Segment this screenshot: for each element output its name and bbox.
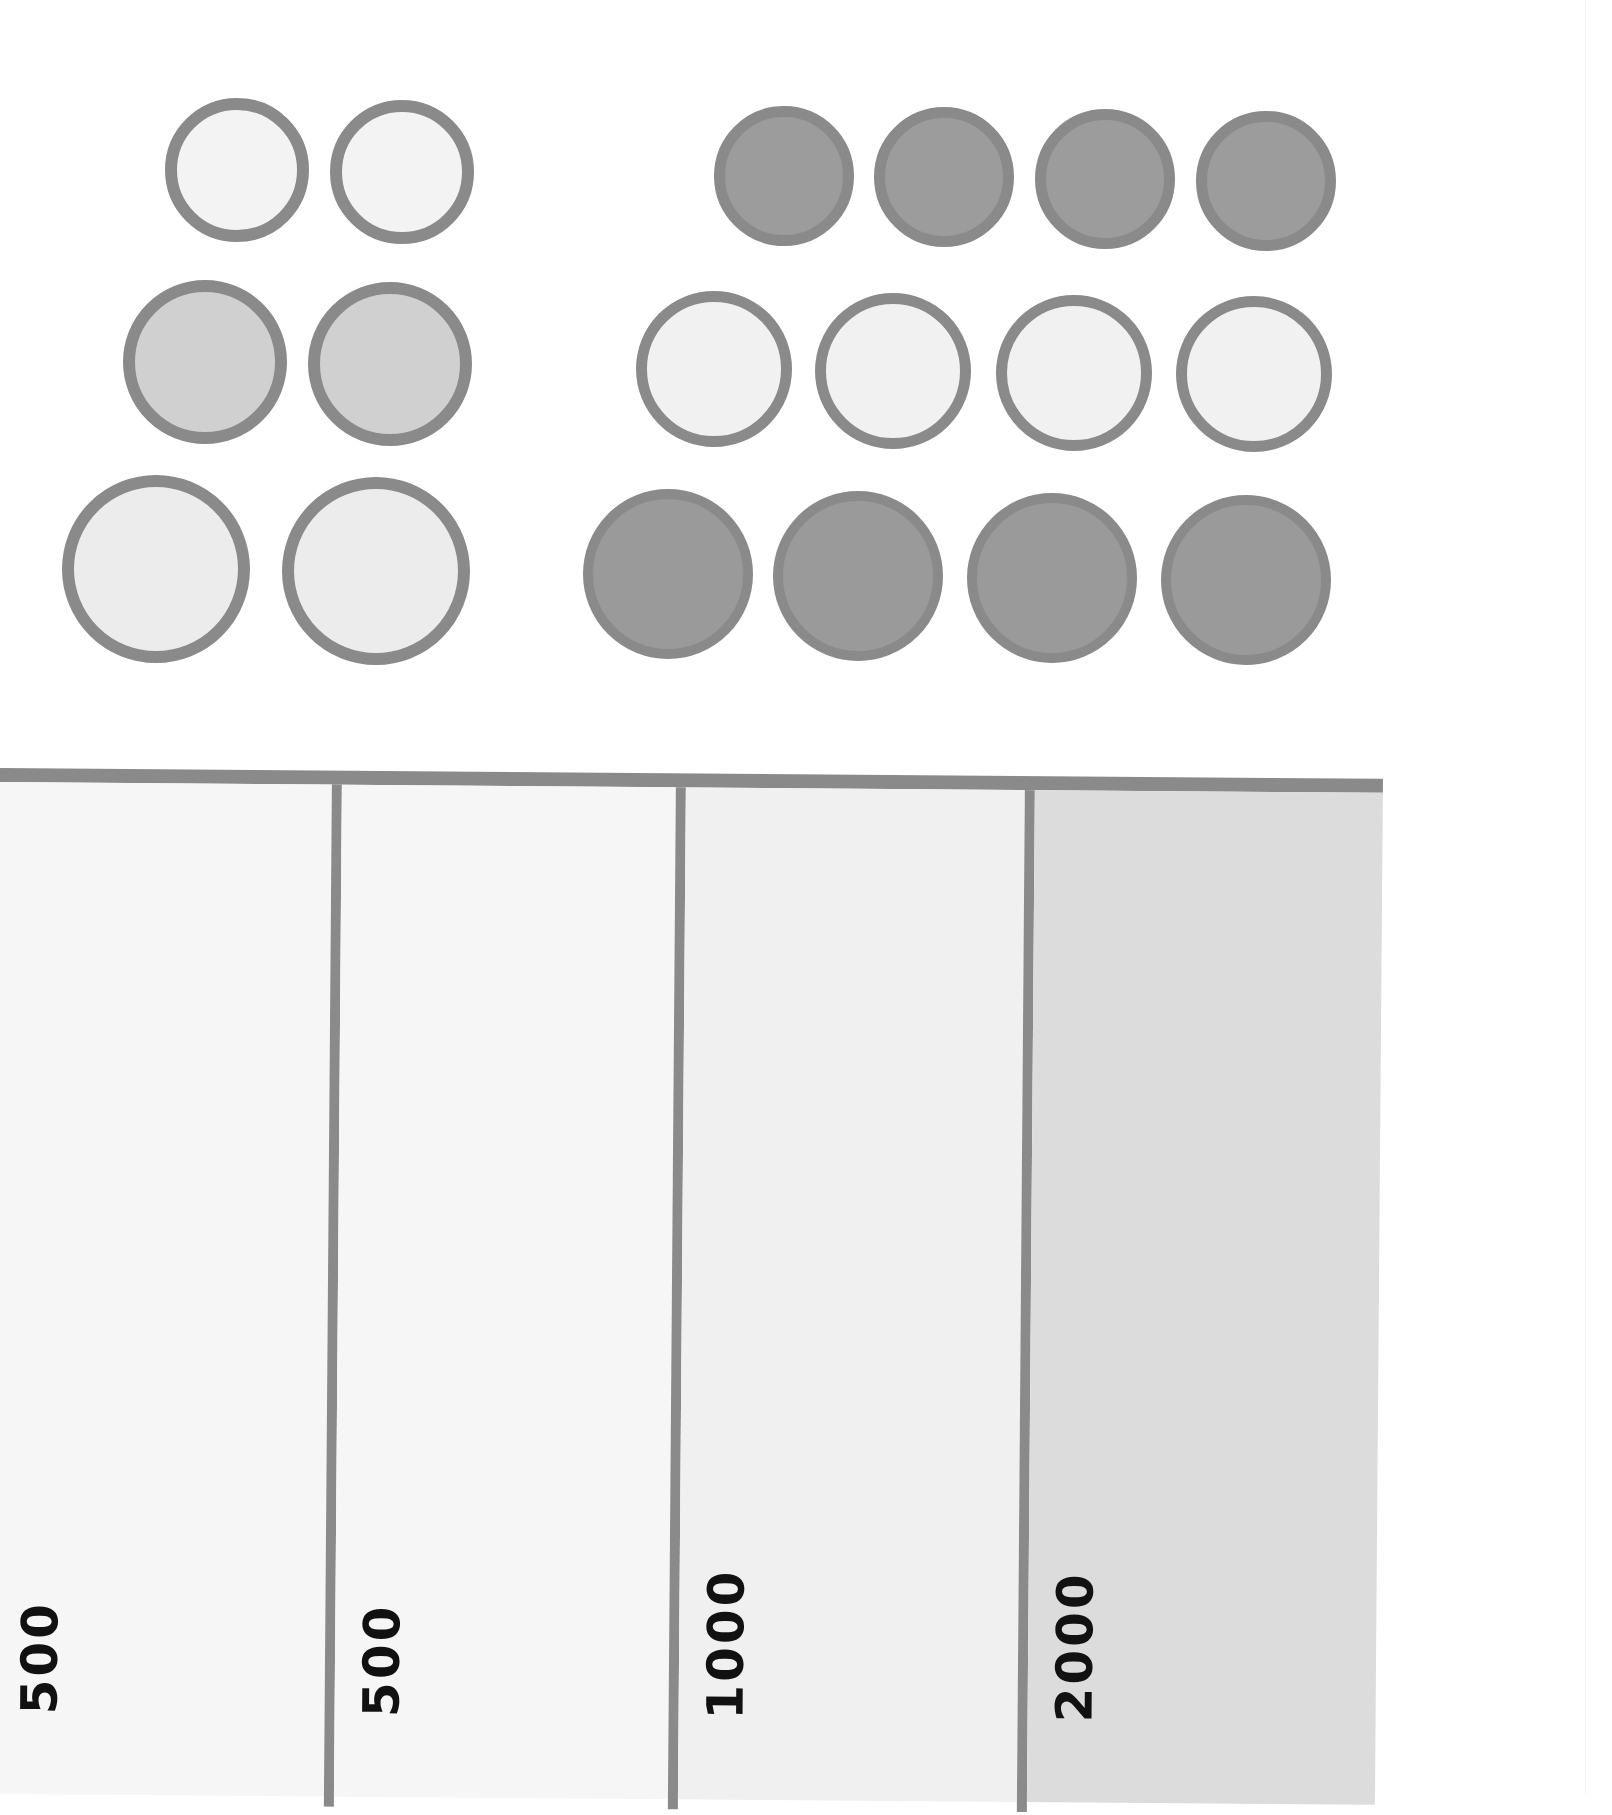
coin-left-row1-circle bbox=[165, 98, 309, 242]
column-label: 500 bbox=[15, 1601, 66, 1715]
coin-right-row1-circle bbox=[1196, 111, 1336, 251]
column-1: 500 bbox=[0, 782, 332, 1797]
coin-right-row3-circle bbox=[583, 489, 753, 659]
coin-right-row2-circle bbox=[815, 293, 971, 449]
column-2: 500 bbox=[334, 785, 676, 1800]
coin-left-row1-circle bbox=[330, 100, 474, 244]
coin-left-row3-circle bbox=[62, 475, 250, 663]
coin-right-row1-circle bbox=[1035, 109, 1175, 249]
column-label: 1000 bbox=[701, 1568, 752, 1720]
coin-right-row2-circle bbox=[636, 291, 792, 447]
column-label: 500 bbox=[357, 1603, 408, 1717]
column-label: 2000 bbox=[1050, 1571, 1101, 1723]
page-edge bbox=[1585, 0, 1586, 1794]
coin-left-row2-circle bbox=[308, 282, 472, 446]
coin-right-row1-circle bbox=[874, 107, 1014, 247]
coin-right-row2-circle bbox=[1176, 296, 1332, 452]
column-4: 2000 bbox=[1027, 790, 1383, 1805]
value-table: 500 500 1000 2000 bbox=[0, 768, 1383, 1805]
coin-right-row3-circle bbox=[1161, 495, 1331, 665]
column-3: 1000 bbox=[678, 787, 1025, 1802]
coin-right-row2-circle bbox=[996, 295, 1152, 451]
coin-right-row3-circle bbox=[773, 491, 943, 661]
coin-right-row3-circle bbox=[967, 493, 1137, 663]
coin-left-row2-circle bbox=[123, 280, 287, 444]
coin-right-row1-circle bbox=[714, 106, 854, 246]
coin-left-row3-circle bbox=[282, 477, 470, 665]
